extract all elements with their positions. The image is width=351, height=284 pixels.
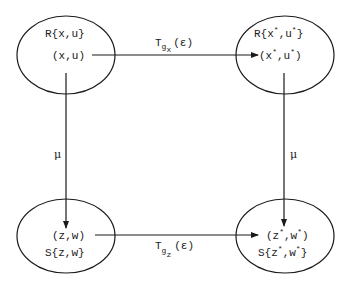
node-top-right-point-label: (x*,u*) xyxy=(259,47,302,62)
bottom-arrow-label: Tgz(ε) xyxy=(155,240,194,259)
left-arrow-label: μ xyxy=(54,148,61,161)
node-bottom-left-set-label: S{z,w} xyxy=(45,247,85,259)
top-arrow-label: Tgx(ε) xyxy=(155,37,193,54)
node-top-left-set-label: R{x,u} xyxy=(45,28,85,40)
node-bottom-right-point-label: (z*,w*) xyxy=(266,227,309,242)
right-arrow-label: μ xyxy=(290,148,297,161)
node-top-right-set-label: R{x*,u*} xyxy=(254,25,303,40)
node-bottom-left-point-label: (z,w) xyxy=(52,230,85,242)
node-top-left-point-label: (x,u) xyxy=(52,50,85,62)
node-bottom-right-set-label: S{z*,w*} xyxy=(258,244,307,259)
commutative-diagram: R{x,u} (x,u) R{x*,u*} (x*,u*) (z,w) S{z,… xyxy=(0,0,351,284)
